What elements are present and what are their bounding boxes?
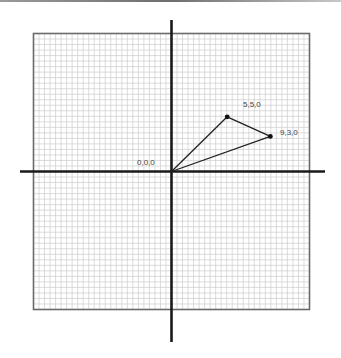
point-9-3-0-label: 9,3,0 [280, 128, 298, 137]
origin-label: 0,0,0 [137, 158, 155, 167]
point-marker [225, 114, 230, 119]
point-5-5-0-label: 5,5,0 [243, 100, 261, 109]
point-marker [268, 134, 273, 139]
coordinate-diagram: 0,0,0 5,5,0 9,3,0 [0, 0, 341, 358]
